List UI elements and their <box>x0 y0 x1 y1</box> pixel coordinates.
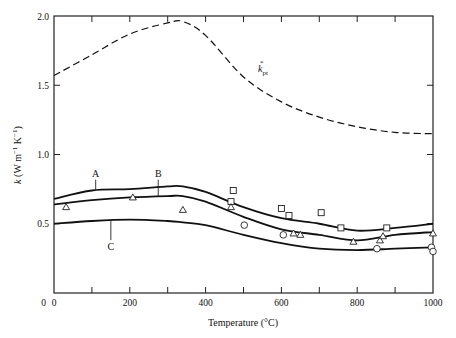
circle-marker <box>241 222 248 229</box>
curve-label-a: A <box>92 168 100 179</box>
curve-kpt <box>54 21 433 134</box>
x-tick-label: 600 <box>274 298 289 308</box>
triangle-marker <box>179 206 186 212</box>
x-tick-label: 200 <box>123 298 138 308</box>
chart: 0200400600800100000.51.01.52.0 ABC Tempe… <box>0 0 456 338</box>
plot-curves <box>54 21 433 251</box>
circle-marker <box>374 245 381 252</box>
y-tick-label: 2.0 <box>37 12 49 22</box>
curve-label-c: C <box>108 241 115 252</box>
curve-label-b: B <box>155 168 162 179</box>
square-marker <box>230 188 236 194</box>
x-tick-label: 400 <box>198 298 213 308</box>
curve-annotations: ABC <box>92 168 162 252</box>
y-axis-label: k (W m−1 K−1) <box>11 126 24 184</box>
square-marker <box>278 206 284 212</box>
square-marker <box>286 212 292 218</box>
circle-marker <box>430 248 437 255</box>
circle-marker <box>280 232 287 239</box>
y-tick-label: 1.0 <box>37 150 49 160</box>
y-tick-label: 1.5 <box>37 81 49 91</box>
plot-axes: 0200400600800100000.51.01.52.0 <box>37 12 443 309</box>
y-tick-label: 0.5 <box>37 219 49 229</box>
square-marker <box>384 225 390 231</box>
triangle-marker <box>63 204 70 210</box>
y-tick-label: 0 <box>41 298 46 308</box>
x-axis-label: Temperature (°C) <box>208 317 278 329</box>
x-tick-label: 0 <box>52 298 57 308</box>
square-marker <box>338 225 344 231</box>
square-marker <box>318 210 324 216</box>
x-tick-label: 1000 <box>424 298 443 308</box>
x-tick-label: 800 <box>350 298 365 308</box>
kpt-curve-label: kpt* <box>258 59 268 77</box>
